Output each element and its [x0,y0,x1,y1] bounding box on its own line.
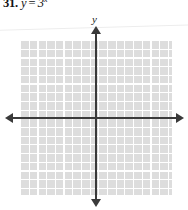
exercise-figure: 31.y=3x y [0,0,188,210]
x-axis-arrow-left-icon [5,113,13,123]
y-axis-label: y [92,13,97,25]
y-axis-arrow-up-icon [91,26,101,34]
y-axis [95,32,97,204]
x-axis-arrow-right-icon [176,113,184,123]
coordinate-plane: y [0,0,188,210]
y-axis-arrow-down-icon [91,199,101,207]
